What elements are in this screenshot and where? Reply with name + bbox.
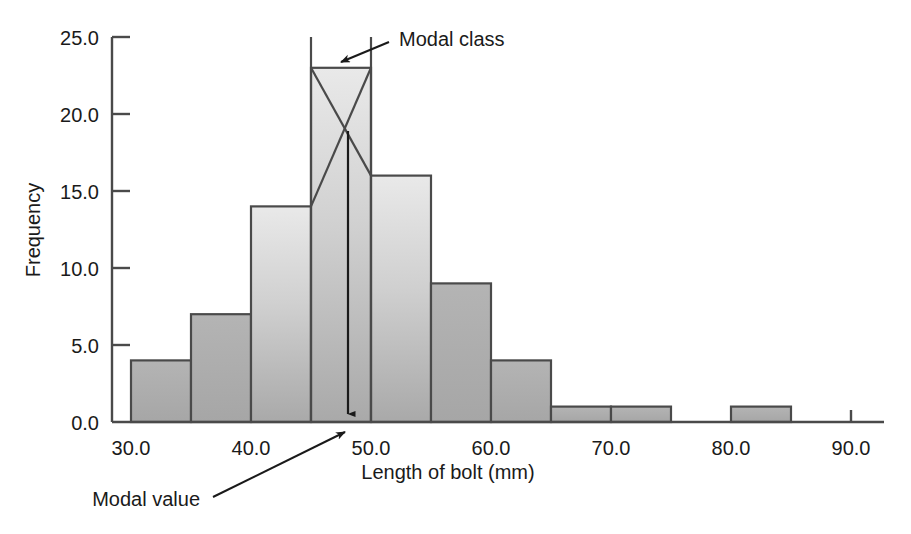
x-tick-label-70: 70.0	[592, 437, 631, 459]
y-tick-label-15: 15.0	[60, 181, 99, 203]
y-tick-label-20: 20.0	[60, 104, 99, 126]
modal-class-label: Modal class	[399, 28, 505, 50]
bar-65-70	[551, 407, 611, 422]
bar-80-85	[731, 407, 791, 422]
x-tick-label-60: 60.0	[472, 437, 511, 459]
histogram-svg: 25.0 20.0 15.0 10.0 5.0 0.0 30.0 40.0 50…	[0, 0, 911, 534]
y-tick-label-25: 25.0	[60, 27, 99, 49]
histogram-figure: 25.0 20.0 15.0 10.0 5.0 0.0 30.0 40.0 50…	[0, 0, 911, 534]
x-tick-label-30: 30.0	[112, 437, 151, 459]
x-axis-title: Length of bolt (mm)	[361, 461, 534, 483]
bar-70-75	[611, 407, 671, 422]
y-tick-label-0: 0.0	[71, 412, 99, 434]
y-tick-label-10: 10.0	[60, 258, 99, 280]
modal-value-label: Modal value	[92, 488, 200, 510]
bar-50-55	[371, 176, 431, 422]
bar-55-60	[431, 283, 491, 422]
y-axis-title: Frequency	[22, 183, 44, 278]
x-tick-label-80: 80.0	[712, 437, 751, 459]
bar-60-65	[491, 360, 551, 422]
bar-35-40	[191, 314, 251, 422]
x-tick-label-50: 50.0	[352, 437, 391, 459]
x-tick-label-40: 40.0	[232, 437, 271, 459]
y-tick-label-5: 5.0	[71, 335, 99, 357]
bar-40-45	[251, 206, 311, 422]
x-tick-label-90: 90.0	[832, 437, 871, 459]
bar-30-35	[131, 360, 191, 422]
